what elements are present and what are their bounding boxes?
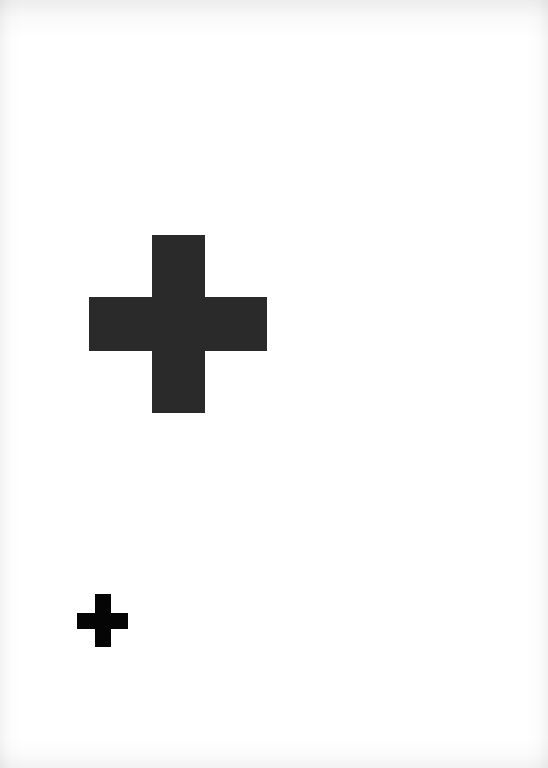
small-cross-horizontal-bar <box>77 613 128 629</box>
large-cross-horizontal-bar <box>89 297 267 351</box>
document-page <box>0 0 548 768</box>
